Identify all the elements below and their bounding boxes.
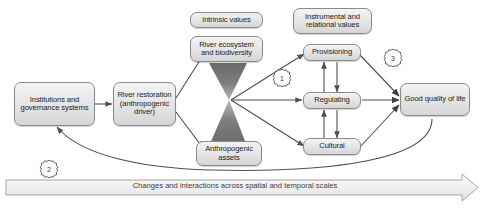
node-regulating-label: Regulating [314, 96, 349, 105]
node-intrinsic-values-label: Intrinsic values [202, 16, 251, 25]
arrow-cultural-to-quality [360, 105, 399, 147]
node-institutions[interactable]: Institutions and governance systems [14, 82, 95, 126]
node-instrumental-values-label: Instrumental and relational values [297, 13, 368, 30]
node-regulating[interactable]: Regulating [303, 92, 361, 109]
hourglass-shape [209, 63, 247, 146]
node-provisioning-label: Provisioning [312, 48, 352, 57]
node-river-ecosystem-label: River ecosystem and biodiversity [194, 41, 259, 58]
node-river-ecosystem[interactable]: River ecosystem and biodiversity [190, 36, 263, 62]
badge-2-label: 2 [47, 166, 51, 173]
scales-banner-label: Changes and interactions across spatial … [0, 181, 470, 190]
badge-1[interactable]: 1 [272, 68, 292, 88]
node-cultural[interactable]: Cultural [303, 138, 361, 155]
diagram-canvas: Institutions and governance systems Rive… [0, 0, 484, 212]
node-good-quality-of-life[interactable]: Good quality of life [400, 83, 470, 116]
node-intrinsic-values[interactable]: Intrinsic values [190, 12, 263, 28]
node-anthropogenic-assets-label: Anthropogenic assets [200, 145, 258, 162]
scales-banner-text: Changes and interactions across spatial … [133, 181, 338, 190]
node-good-quality-of-life-label: Good quality of life [405, 95, 466, 104]
node-cultural-label: Cultural [319, 142, 344, 151]
badge-1-label: 1 [280, 75, 284, 82]
node-river-restoration-label: River restoration (anthropogenic driver) [117, 91, 172, 117]
badge-2[interactable]: 2 [39, 159, 59, 179]
node-institutions-label: Institutions and governance systems [18, 96, 91, 113]
node-provisioning[interactable]: Provisioning [303, 44, 361, 61]
node-river-restoration[interactable]: River restoration (anthropogenic driver) [113, 82, 176, 126]
badge-3-label: 3 [391, 55, 395, 62]
badge-3[interactable]: 3 [383, 48, 403, 68]
node-instrumental-values[interactable]: Instrumental and relational values [293, 8, 372, 34]
node-anthropogenic-assets[interactable]: Anthropogenic assets [196, 141, 262, 166]
